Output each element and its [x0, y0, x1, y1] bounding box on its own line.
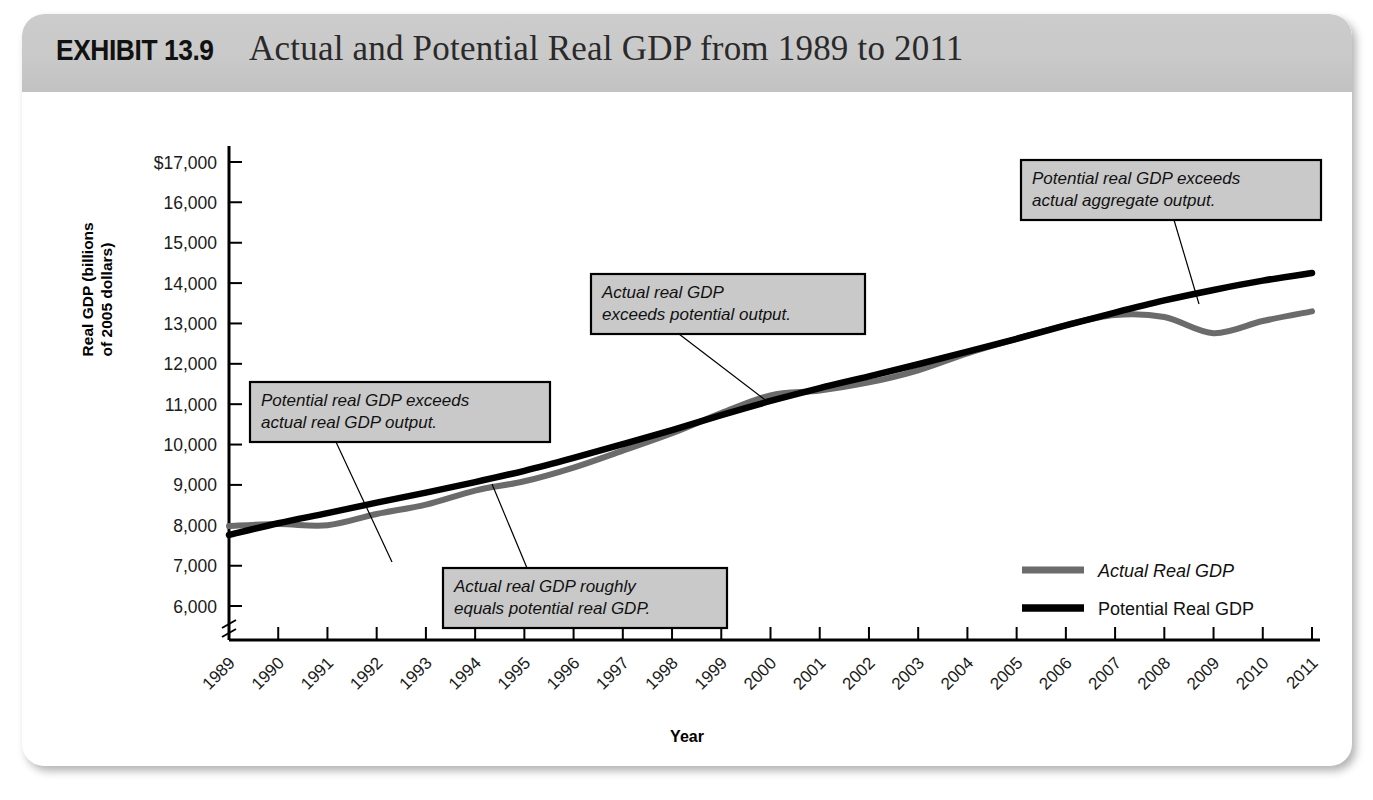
x-tick-label: 1997: [592, 653, 632, 693]
x-tick-label: 2009: [1183, 653, 1223, 693]
legend: Actual Real GDPPotential Real GDP: [1022, 561, 1254, 619]
x-tick-label: 1989: [199, 653, 239, 693]
y-tick-label: 6,000: [173, 597, 217, 617]
x-tick-label: 2001: [789, 653, 829, 693]
y-tick-label: $17,000: [154, 153, 218, 173]
y-tick-label: 15,000: [163, 233, 217, 253]
y-tick-label: 10,000: [163, 435, 217, 455]
y-tick-label: 8,000: [173, 516, 217, 536]
y-tick-label: 9,000: [173, 475, 217, 495]
x-axis-title: Year: [22, 728, 1352, 746]
callout-text-line: Actual real GDP: [601, 283, 725, 302]
x-tick-label: 2008: [1134, 653, 1174, 693]
callout-actual-equals-potential: Actual real GDP roughlyequals potential …: [443, 568, 727, 628]
exhibit-card: EXHIBIT 13.9 Actual and Potential Real G…: [22, 14, 1352, 766]
exhibit-header-band: EXHIBIT 13.9 Actual and Potential Real G…: [22, 14, 1352, 92]
callout-actual-exceeds-potential: Actual real GDPexceeds potential output.: [591, 274, 865, 334]
callout-potential-exceeds-actual-late: Potential real GDP exceedsactual aggrega…: [1021, 160, 1321, 220]
callout-text-line: equals potential real GDP.: [454, 599, 650, 618]
x-tick-label: 2006: [1036, 653, 1076, 693]
y-tick-label: 13,000: [163, 314, 217, 334]
callout-text-line: exceeds potential output.: [602, 305, 791, 324]
callout-text-line: actual real GDP output.: [261, 413, 437, 432]
y-tick-label: 11,000: [165, 395, 217, 415]
x-tick-label: 1991: [297, 653, 337, 693]
x-tick-label: 2004: [937, 653, 977, 693]
x-tick-label: 1994: [445, 653, 485, 693]
x-tick-label: 2005: [986, 653, 1026, 693]
x-tick-label: 1996: [543, 653, 583, 693]
x-tick-label: 2007: [1085, 653, 1125, 693]
x-tick-label: 1992: [346, 653, 386, 693]
callout-leader-line: [679, 334, 768, 402]
x-tick-label: 1993: [396, 653, 436, 693]
exhibit-header: EXHIBIT 13.9 Actual and Potential Real G…: [56, 29, 964, 69]
callout-potential-exceeds-actual-early: Potential real GDP exceedsactual real GD…: [250, 382, 550, 442]
x-tick-label: 1999: [691, 653, 731, 693]
exhibit-title: Actual and Potential Real GDP from 1989 …: [249, 29, 963, 69]
callout-leader-line: [492, 484, 527, 568]
callout-leader-line: [1174, 220, 1199, 304]
y-tick-label: 16,000: [163, 193, 217, 213]
chart-plot-area: $17,00016,00015,00014,00013,00012,00011,…: [22, 92, 1352, 766]
callout-text-line: actual aggregate output.: [1032, 191, 1215, 210]
line-chart: $17,00016,00015,00014,00013,00012,00011,…: [22, 92, 1352, 766]
x-tick-label: 1995: [494, 653, 534, 693]
x-tick-label: 2011: [1283, 653, 1322, 692]
x-tick-label: 1998: [642, 653, 682, 693]
exhibit-number: EXHIBIT 13.9: [56, 33, 214, 67]
y-tick-label: 7,000: [173, 556, 217, 576]
x-tick-label: 2000: [740, 653, 780, 693]
x-tick-group: 1989199019911992199319941995199619971998…: [199, 627, 1322, 694]
exhibit-figure: EXHIBIT 13.9 Actual and Potential Real G…: [0, 0, 1373, 800]
y-tick-label: 12,000: [163, 354, 217, 374]
y-tick-label: 14,000: [163, 274, 217, 294]
callout-text-line: Potential real GDP exceeds: [1032, 169, 1241, 188]
legend-label-potential: Potential Real GDP: [1098, 599, 1254, 619]
callout-text-line: Actual real GDP roughly: [453, 577, 637, 596]
legend-label-actual: Actual Real GDP: [1097, 561, 1234, 581]
x-tick-label: 1990: [248, 653, 288, 693]
x-tick-label: 2003: [888, 653, 928, 693]
x-tick-label: 2010: [1232, 653, 1272, 693]
callout-text-line: Potential real GDP exceeds: [261, 391, 470, 410]
x-tick-label: 2002: [839, 653, 879, 693]
